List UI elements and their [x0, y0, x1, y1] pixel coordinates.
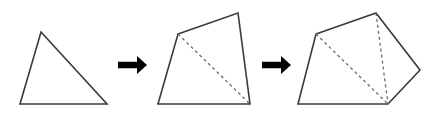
pentagon-outline	[298, 13, 420, 104]
stage-pentagon	[298, 13, 420, 104]
arrow-right-icon-2	[262, 56, 291, 74]
polygon-triangulation-figure	[0, 0, 446, 114]
arrow-1-head	[137, 56, 147, 74]
stage-triangle	[20, 32, 107, 104]
stage-quadrilateral	[158, 13, 250, 104]
triangle-outline	[20, 32, 107, 104]
quadrilateral-outline	[158, 13, 250, 104]
quadrilateral-diagonal-1	[178, 34, 250, 104]
pentagon-diagonal-1	[316, 34, 388, 104]
arrow-right-icon-1	[118, 56, 147, 74]
arrow-2-head	[281, 56, 291, 74]
figure-container	[0, 0, 446, 114]
